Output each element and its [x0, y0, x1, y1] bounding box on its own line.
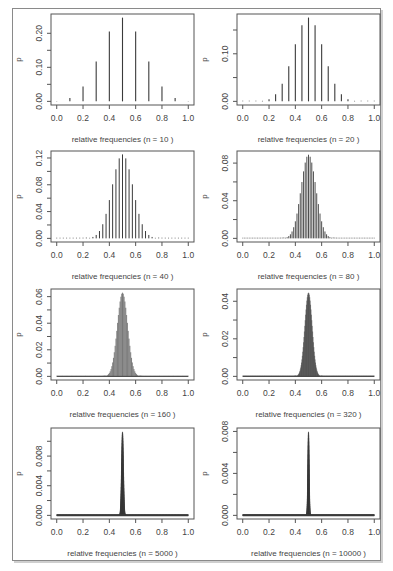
x-tick-label: 1.0 — [182, 113, 194, 123]
y-tick-label: 0.04 — [220, 192, 230, 209]
x-tick-label: 0.6 — [316, 527, 328, 537]
x-tick-label: 0.6 — [130, 113, 142, 123]
y-tick-label: 0.000 — [220, 504, 230, 526]
x-tick-label: 0.0 — [51, 388, 63, 398]
y-tick-label: 0.004 — [220, 462, 230, 484]
x-tick-label: 0.6 — [130, 527, 142, 537]
x-tick-label: 0.4 — [289, 527, 301, 537]
x-tick-label: 0.8 — [156, 388, 168, 398]
x-tick-label: 0.2 — [263, 113, 275, 123]
chart-panel-n-20: 0.00.20.40.60.81.0relative frequencies (… — [197, 8, 387, 144]
x-axis-label: relative frequencies (n = 5000 ) — [67, 549, 178, 558]
y-tick-label: 0.02 — [220, 330, 230, 347]
x-tick-label: 0.2 — [77, 113, 89, 123]
x-tick-label: 0.8 — [342, 113, 354, 123]
x-axis: 0.00.20.40.60.81.0 — [237, 242, 381, 260]
x-tick-label: 0.2 — [263, 250, 275, 260]
x-tick-label: 0.0 — [237, 527, 249, 537]
y-axis: 0.000.040.08 — [220, 155, 237, 247]
x-tick-label: 0.2 — [77, 250, 89, 260]
y-axis: 0.0000.0040.008 — [220, 421, 237, 526]
x-tick-label: 0.4 — [103, 113, 115, 123]
y-tick-label: 0.00 — [220, 93, 230, 110]
x-axis: 0.00.20.40.60.81.0 — [51, 105, 195, 123]
y-axis: 0.000.10 — [220, 30, 237, 110]
y-tick-label: 0.008 — [34, 445, 44, 467]
x-tick-label: 0.4 — [289, 388, 301, 398]
x-axis: 0.00.20.40.60.81.0 — [237, 519, 381, 537]
x-axis: 0.00.20.40.60.81.0 — [237, 105, 381, 123]
x-tick-label: 1.0 — [368, 113, 380, 123]
y-tick-label: 0.10 — [220, 45, 230, 62]
x-tick-label: 0.8 — [342, 527, 354, 537]
y-axis-label: p — [14, 194, 23, 199]
chart-panel-n-40: 0.00.20.40.60.81.0relative frequencies (… — [11, 145, 201, 281]
x-axis-label: relative frequencies (n = 160 ) — [69, 410, 175, 419]
x-tick-label: 0.4 — [289, 250, 301, 260]
x-axis: 0.00.20.40.60.81.0 — [51, 519, 195, 537]
y-tick-label: 0.04 — [34, 315, 44, 332]
x-tick-label: 1.0 — [368, 388, 380, 398]
x-tick-label: 0.2 — [77, 388, 89, 398]
y-tick-label: 0.004 — [34, 475, 44, 497]
chart-panel-n-10000: 0.00.20.40.60.81.0relative frequencies (… — [197, 422, 387, 558]
x-tick-label: 0.8 — [342, 250, 354, 260]
x-tick-label: 1.0 — [182, 388, 194, 398]
bars — [57, 432, 189, 516]
chart-panel-n-80: 0.00.20.40.60.81.0relative frequencies (… — [197, 145, 387, 281]
x-tick-label: 0.4 — [103, 388, 115, 398]
y-tick-label: 0.00 — [220, 230, 230, 247]
bars — [57, 293, 189, 377]
x-tick-label: 1.0 — [368, 527, 380, 537]
x-axis-label: relative frequencies (n = 10000 ) — [251, 549, 366, 558]
x-tick-label: 0.2 — [263, 527, 275, 537]
x-tick-label: 0.2 — [263, 388, 275, 398]
x-tick-label: 0.8 — [156, 527, 168, 537]
y-axis-label: p — [200, 194, 209, 199]
x-tick-label: 0.2 — [77, 527, 89, 537]
chart-panel-n-320: 0.00.20.40.60.81.0relative frequencies (… — [197, 283, 387, 419]
y-axis: 0.000.040.080.12 — [34, 149, 51, 246]
y-tick-label: 0.00 — [220, 368, 230, 385]
y-tick-label: 0.08 — [220, 155, 230, 172]
x-axis-label: relative frequencies (n = 320 ) — [255, 410, 361, 419]
y-axis: 0.000.020.04 — [220, 293, 237, 385]
y-axis: 0.000.020.040.06 — [34, 288, 51, 385]
y-tick-label: 0.06 — [34, 288, 44, 305]
y-tick-label: 0.12 — [34, 149, 44, 166]
y-tick-label: 0.00 — [34, 93, 44, 110]
x-tick-label: 1.0 — [368, 250, 380, 260]
y-tick-label: 0.02 — [34, 341, 44, 358]
x-tick-label: 0.6 — [316, 113, 328, 123]
y-tick-label: 0.00 — [34, 230, 44, 247]
y-tick-label: 0.20 — [34, 25, 44, 42]
y-tick-label: 0.04 — [34, 203, 44, 220]
y-tick-label: 0.000 — [34, 504, 44, 526]
x-tick-label: 1.0 — [182, 250, 194, 260]
x-tick-label: 0.0 — [237, 250, 249, 260]
bars — [243, 432, 375, 516]
bars — [243, 293, 375, 377]
x-tick-label: 0.6 — [130, 250, 142, 260]
x-tick-label: 0.0 — [51, 250, 63, 260]
x-axis: 0.00.20.40.60.81.0 — [51, 380, 195, 398]
y-tick-label: 0.08 — [34, 176, 44, 193]
chart-panel-n-10: 0.00.20.40.60.81.0relative frequencies (… — [11, 8, 201, 144]
y-axis-label: p — [14, 332, 23, 337]
x-axis: 0.00.20.40.60.81.0 — [51, 242, 195, 260]
chart-panel-n-5000: 0.00.20.40.60.81.0relative frequencies (… — [11, 422, 201, 558]
y-axis-label: p — [200, 332, 209, 337]
x-tick-label: 0.6 — [316, 250, 328, 260]
x-tick-label: 0.0 — [237, 388, 249, 398]
x-tick-label: 0.6 — [130, 388, 142, 398]
x-tick-label: 0.4 — [289, 113, 301, 123]
x-tick-label: 0.0 — [51, 113, 63, 123]
y-axis-label: p — [14, 471, 23, 476]
x-axis: 0.00.20.40.60.81.0 — [237, 380, 381, 398]
x-tick-label: 0.8 — [342, 388, 354, 398]
bars — [57, 154, 189, 238]
x-tick-label: 1.0 — [182, 527, 194, 537]
y-tick-label: 0.00 — [34, 368, 44, 385]
x-tick-label: 0.8 — [156, 250, 168, 260]
x-tick-label: 0.8 — [156, 113, 168, 123]
